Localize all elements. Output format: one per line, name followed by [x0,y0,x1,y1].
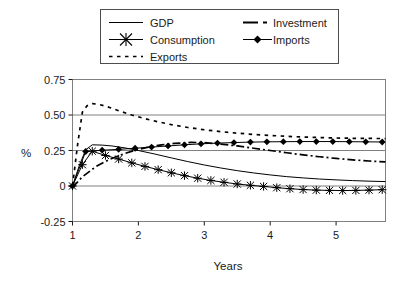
y-axis: -0.2500.250.500.75 [40,74,72,228]
x-tick-label-4: 5 [333,229,339,241]
marker-asterisk [378,185,386,193]
marker-asterisk [365,186,373,194]
legend-label-gdp: GDP [150,17,174,29]
legend-swatch-consumption-marker [120,33,133,46]
x-axis-title: Years [214,260,243,272]
y-tick-label-0: -0.25 [40,216,65,228]
series-imports [69,138,386,189]
marker-diamond [313,138,320,145]
marker-diamond [280,138,287,145]
marker-asterisk [167,169,175,177]
legend-label-exports: Exports [150,51,188,63]
marker-asterisk [128,159,136,167]
marker-asterisk [154,165,162,173]
marker-asterisk [352,186,360,194]
marker-asterisk [312,186,320,194]
marker-diamond [296,138,303,145]
x-tick-label-2: 3 [201,229,207,241]
marker-asterisk [194,174,202,182]
marker-diamond [379,139,386,146]
marker-diamond [362,138,369,145]
marker-diamond [198,140,205,147]
chart-legend: GDP Investment Consumption [101,10,339,64]
marker-asterisk [273,184,281,192]
marker-asterisk [299,185,307,193]
y-tick-label-3: 0.50 [44,109,65,121]
marker-diamond [214,140,221,147]
y-tick-label-4: 0.75 [44,74,65,86]
marker-diamond [329,138,336,145]
marker-asterisk [286,185,294,193]
series-consumption [68,147,386,195]
series-layer [68,104,386,195]
y-tick-label-1: 0 [59,180,65,192]
marker-asterisk [246,181,254,189]
marker-diamond [247,139,254,146]
line-chart: GDP Investment Consumption [0,0,406,289]
chart-container: GDP Investment Consumption [0,0,406,289]
marker-diamond [263,138,270,145]
x-tick-label-0: 1 [69,229,75,241]
series-line-exports [73,104,386,186]
marker-diamond [181,141,188,148]
marker-asterisk [259,182,267,190]
marker-asterisk [338,186,346,194]
series-exports [73,104,386,186]
marker-diamond [165,143,172,150]
marker-diamond [99,147,106,154]
marker-asterisk [207,176,215,184]
y-tick-label-2: 0.25 [44,145,65,157]
y-axis-title: % [21,147,31,159]
marker-diamond [346,138,353,145]
marker-asterisk [141,162,149,170]
legend-label-imports: Imports [273,34,310,46]
marker-asterisk [220,178,228,186]
x-axis: 12345 [69,222,339,241]
marker-diamond [148,144,155,151]
x-tick-label-1: 2 [135,229,141,241]
marker-diamond [82,148,89,155]
marker-asterisk [325,186,333,194]
legend-label-consumption: Consumption [150,34,215,46]
legend-label-investment: Investment [273,17,327,29]
x-tick-label-3: 4 [267,229,273,241]
marker-asterisk [233,180,241,188]
marker-asterisk [180,171,188,179]
